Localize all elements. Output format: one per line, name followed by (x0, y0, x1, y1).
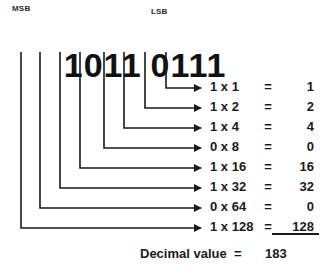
equation-term: 1 x 1 (210, 79, 260, 94)
leader-bit-2 (124, 52, 201, 128)
equation-term: 1 x 32 (210, 179, 260, 194)
leader-bit-3 (104, 52, 201, 148)
equation-value: 128 (276, 219, 314, 234)
equation-sign: = (260, 199, 276, 214)
equation-sign: = (260, 159, 276, 174)
leader-bit-6 (40, 52, 201, 208)
sum-divider (272, 233, 319, 235)
equation-sign: = (260, 79, 276, 94)
equation-value: 2 (276, 99, 314, 114)
decimal-total-row: Decimal value = 183 (140, 246, 287, 261)
decimal-total-value: 183 (249, 246, 287, 261)
equation-value: 4 (276, 119, 314, 134)
binary-to-decimal-diagram: MSB LSB 10110111 (0, 0, 326, 273)
equation-value: 0 (276, 199, 314, 214)
equation-sign: = (260, 139, 276, 154)
leader-bit-4 (80, 52, 201, 168)
equation-row: 0 x 8 = 0 (210, 139, 326, 159)
equation-term: 0 x 8 (210, 139, 260, 154)
decimal-total-sign: = (227, 246, 249, 261)
equation-term: 1 x 4 (210, 119, 260, 134)
equation-row: 1 x 16 = 16 (210, 159, 326, 179)
equation-row: 1 x 1 = 1 (210, 79, 326, 99)
equation-term: 1 x 2 (210, 99, 260, 114)
leader-bit-1 (145, 52, 201, 108)
equation-list: 1 x 1 = 1 1 x 2 = 2 1 x 4 = 4 0 x 8 = 0 … (210, 79, 326, 239)
equation-value: 16 (276, 159, 314, 174)
decimal-total-label: Decimal value (140, 246, 227, 261)
equation-value: 1 (276, 79, 314, 94)
equation-term: 1 x 128 (210, 219, 260, 234)
equation-row: 1 x 32 = 32 (210, 179, 326, 199)
equation-sign: = (260, 119, 276, 134)
equation-row: 1 x 2 = 2 (210, 99, 326, 119)
leader-bit-7 (21, 52, 201, 228)
equation-term: 0 x 64 (210, 199, 260, 214)
equation-sign: = (260, 179, 276, 194)
equation-row: 1 x 4 = 4 (210, 119, 326, 139)
equation-sign: = (260, 219, 276, 234)
equation-value: 0 (276, 139, 314, 154)
equation-value: 32 (276, 179, 314, 194)
equation-row: 0 x 64 = 0 (210, 199, 326, 219)
equation-sign: = (260, 99, 276, 114)
leader-bit-0 (166, 52, 201, 88)
equation-row: 1 x 128 = 128 (210, 219, 326, 239)
equation-term: 1 x 16 (210, 159, 260, 174)
